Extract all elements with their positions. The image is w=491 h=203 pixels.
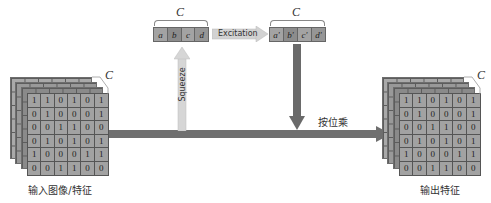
matrix-cell: 1 — [453, 148, 466, 162]
matrix-cell: 0 — [55, 135, 68, 149]
matrix-cell: 1 — [427, 162, 440, 176]
matrix-cell: 0 — [440, 108, 453, 122]
vector-cell: d — [195, 28, 208, 41]
matrix-cell: 0 — [41, 148, 54, 162]
matrix-cell: 0 — [413, 121, 426, 135]
matrix-cell: 0 — [453, 135, 466, 149]
matrix-cell: 0 — [81, 94, 94, 108]
matrix-cell: 1 — [28, 148, 41, 162]
matrix-cell: 0 — [400, 162, 413, 176]
output-feature-matrix: 110101010001001100010101100011001100 — [399, 93, 481, 176]
matrix-cell: 1 — [68, 135, 81, 149]
squeeze-vector: a b c d — [153, 27, 209, 42]
matrix-cell: 0 — [95, 121, 108, 135]
matrix-cell: 1 — [28, 94, 41, 108]
matrix-cell: 0 — [68, 148, 81, 162]
matrix-cell: 1 — [440, 162, 453, 176]
output-caption: 输出特征 — [390, 182, 490, 197]
matrix-cell: 0 — [81, 121, 94, 135]
matrix-cell: 1 — [68, 94, 81, 108]
matrix-cell: 0 — [81, 135, 94, 149]
vector-cell: c — [182, 28, 196, 41]
input-channel-label: C — [105, 68, 113, 83]
matrix-cell: 0 — [28, 108, 41, 122]
matrix-cell: 0 — [55, 148, 68, 162]
matrix-cell: 0 — [427, 94, 440, 108]
matrix-cell: 1 — [81, 148, 94, 162]
matrix-cell: 1 — [400, 148, 413, 162]
multiply-label: 按位乘 — [318, 114, 348, 129]
matrix-cell: 0 — [55, 94, 68, 108]
vector-cell: b — [168, 28, 182, 41]
matrix-cell: 0 — [68, 108, 81, 122]
matrix-cell: 0 — [467, 162, 480, 176]
matrix-cell: 1 — [467, 148, 480, 162]
output-channel-label: C — [477, 68, 485, 83]
matrix-cell: 0 — [453, 121, 466, 135]
matrix-cell: 0 — [28, 162, 41, 176]
matrix-cell: 0 — [413, 162, 426, 176]
matrix-cell: 0 — [427, 135, 440, 149]
matrix-cell: 1 — [41, 135, 54, 149]
matrix-cell: 1 — [413, 108, 426, 122]
matrix-cell: 1 — [413, 135, 426, 149]
matrix-cell: 0 — [427, 108, 440, 122]
excitation-vector-channel-label: C — [292, 5, 300, 20]
matrix-cell: 1 — [95, 148, 108, 162]
matrix-cell: 1 — [41, 94, 54, 108]
matrix-cell: 0 — [28, 135, 41, 149]
matrix-cell: 0 — [55, 108, 68, 122]
matrix-cell: 0 — [28, 121, 41, 135]
excitation-label: Excitation — [218, 29, 258, 38]
matrix-cell: 0 — [95, 162, 108, 176]
matrix-cell: 1 — [55, 121, 68, 135]
matrix-cell: 0 — [453, 94, 466, 108]
matrix-cell: 1 — [413, 94, 426, 108]
matrix-cell: 1 — [95, 94, 108, 108]
squeeze-label: Squeeze — [177, 67, 186, 101]
matrix-cell: 1 — [427, 121, 440, 135]
squeeze-vector-channel-label: C — [176, 5, 184, 20]
matrix-cell: 0 — [427, 148, 440, 162]
vector-cell: c' — [298, 28, 312, 41]
main-path-arrow — [108, 126, 391, 142]
vector-cell: b' — [284, 28, 298, 41]
matrix-cell: 1 — [440, 121, 453, 135]
matrix-cell: 1 — [68, 121, 81, 135]
matrix-cell: 1 — [68, 162, 81, 176]
matrix-cell: 0 — [453, 162, 466, 176]
matrix-cell: 1 — [467, 135, 480, 149]
matrix-cell: 0 — [453, 108, 466, 122]
matrix-cell: 1 — [467, 94, 480, 108]
matrix-cell: 0 — [41, 121, 54, 135]
matrix-cell: 0 — [467, 121, 480, 135]
vector-cell: a — [154, 28, 168, 41]
vector-cell: d' — [312, 28, 325, 41]
matrix-cell: 1 — [41, 108, 54, 122]
matrix-cell: 1 — [467, 108, 480, 122]
matrix-cell: 0 — [81, 162, 94, 176]
excitation-vector: a' b' c' d' — [269, 27, 326, 42]
input-caption: 输入图像/特征 — [10, 182, 110, 197]
matrix-cell: 1 — [440, 94, 453, 108]
vector-cell: a' — [270, 28, 284, 41]
excitation-vector-brace — [270, 20, 325, 26]
matrix-cell: 0 — [81, 108, 94, 122]
matrix-cell: 0 — [400, 135, 413, 149]
matrix-cell: 0 — [440, 148, 453, 162]
scale-arrow — [289, 44, 305, 130]
squeeze-vector-brace — [154, 20, 208, 26]
matrix-cell: 1 — [400, 94, 413, 108]
matrix-cell: 0 — [413, 148, 426, 162]
matrix-cell: 1 — [95, 108, 108, 122]
matrix-cell: 1 — [55, 162, 68, 176]
input-feature-matrix: 110101010001001100010101100011001100 — [27, 93, 109, 176]
matrix-cell: 0 — [400, 121, 413, 135]
matrix-cell: 1 — [440, 135, 453, 149]
matrix-cell: 0 — [400, 108, 413, 122]
matrix-cell: 1 — [95, 135, 108, 149]
matrix-cell: 0 — [41, 162, 54, 176]
